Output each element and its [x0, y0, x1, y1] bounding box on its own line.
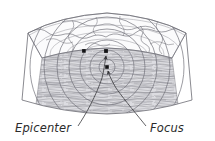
earthquake-diagram: Epicenter Focus	[0, 0, 215, 141]
epicenter-label: Epicenter	[15, 121, 72, 135]
crust-block	[0, 0, 215, 141]
focus-marker	[105, 65, 109, 69]
station-marker	[82, 49, 86, 53]
diagram-canvas: Epicenter Focus	[0, 0, 215, 141]
rock-strata-cutaway	[26, 48, 190, 114]
epicenter-marker	[104, 49, 108, 53]
strata-fill-overlay	[36, 48, 178, 114]
focus-label: Focus	[150, 121, 184, 135]
